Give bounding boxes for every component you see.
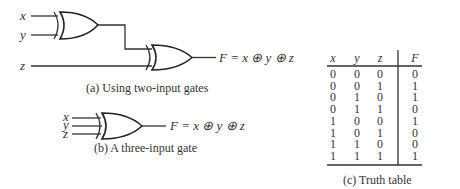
table-row: 0110 [330,102,418,116]
table-row: 0101 [330,90,418,104]
caption-a: (a) Using two-input gates [86,81,209,95]
truth-table-rows: 00000011010101101001101011001111 [330,67,418,163]
input-x-label: x [19,8,26,23]
cell-f: 1 [412,149,418,163]
caption-c: (c) Truth table [343,173,412,187]
table-row: 1010 [330,126,418,140]
xor-gate-3-input [96,113,142,139]
caption-b: (b) A three-input gate [94,141,197,155]
output-equation-a: F = x ⊕ y ⊕ z [218,50,294,65]
cell-z: 1 [377,149,383,163]
table-row: 0011 [330,79,418,93]
input-z-label: z [19,58,25,73]
xor-diagram-canvas: x y z F = x ⊕ y ⊕ z (a) Using two-input … [0,0,460,189]
diagram-b: x y z F = x ⊕ y ⊕ z (b) A three-input ga… [61,109,245,155]
header-y: y [353,51,360,65]
cell-x: 1 [330,149,336,163]
table-row: 1100 [330,137,418,151]
diagram-a: x y z F = x ⊕ y ⊕ z (a) Using two-input … [18,8,294,95]
output-equation-b: F = x ⊕ y ⊕ z [169,118,245,133]
table-row: 1111 [330,149,418,163]
truth-table: x y z F 00000011010101101001101011001111… [327,50,422,187]
xor-gate-3-input-body [102,113,142,139]
xor-gate-2 [146,45,192,70]
xor-gate-1 [54,12,98,39]
wire-gate1-to-gate2 [98,25,152,49]
header-z: z [377,51,383,65]
input-y-label: y [18,27,26,42]
table-row: 0000 [330,67,418,81]
input-z-label-b: z [62,126,68,141]
table-row: 1001 [330,114,418,128]
xor-gate-2-body [152,45,192,70]
header-f: F [410,51,419,65]
cell-y: 1 [354,149,360,163]
xor-gate-1-body [60,12,98,39]
header-x: x [329,51,336,65]
